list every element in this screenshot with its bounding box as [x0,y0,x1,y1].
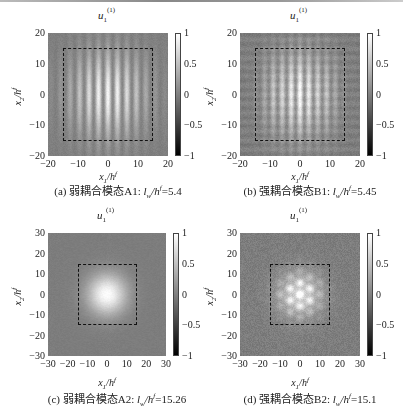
y-tick-label: 0 [217,89,237,100]
colorbar [175,33,181,156]
y-tick-label: −10 [25,309,45,320]
y-tick-label: 0 [217,289,237,300]
dashed-region-box [63,48,153,140]
x-tick-label: 30 [348,358,372,369]
y-axis-label: x2/hf [202,276,217,316]
colorbar [173,233,179,356]
x-tick-label: 0 [96,158,120,169]
dashed-region-box [270,264,330,326]
dashed-region-box [255,48,345,140]
y-tick-label: 20 [217,27,237,38]
heatmap-area [240,233,360,356]
colorbar-tick-label: −1 [376,350,387,361]
plot-title: u1(1) [98,8,115,24]
x-tick-label: 30 [154,358,178,369]
colorbar-tick-label: 1 [184,27,189,38]
y-tick-label: 0 [25,289,45,300]
colorbar-tick-label: 0.5 [376,258,389,269]
colorbar-tick-label: −0.5 [376,119,394,130]
x-tick-label: 20 [156,158,180,169]
x-tick-label: −10 [66,158,90,169]
plot-title: u1(1) [290,8,307,24]
colorbar-tick-label: −0.5 [184,119,202,130]
y-tick-label: −10 [25,119,45,130]
y-axis-label: x2/hf [10,76,25,116]
plot-title: u1(1) [290,208,307,224]
colorbar-tick-label: 1 [376,227,381,238]
colorbar-tick-label: 0 [376,289,381,300]
y-axis-label: x2/hf [202,76,217,116]
y-tick-label: −10 [217,309,237,320]
y-tick-label: 10 [217,268,237,279]
colorbar [367,33,373,156]
y-tick-label: 0 [25,89,45,100]
colorbar-tick-label: −1 [376,150,387,161]
x-tick-label: 20 [348,158,372,169]
panel-caption: (b) 强耦合模态B1: lw/hf=5.45 [210,182,403,200]
colorbar-tick-label: 0.5 [376,58,389,69]
y-tick-label: 30 [25,227,45,238]
y-tick-label: 20 [25,248,45,259]
colorbar-tick-label: 1 [182,227,187,238]
colorbar-tick-label: 1 [376,27,381,38]
y-tick-label: −20 [217,330,237,341]
colorbar-tick-label: 0.5 [182,258,195,269]
y-tick-label: 20 [25,27,45,38]
panel-caption: (c) 弱耦合模态A2: lw/hf=15.26 [18,390,216,408]
colorbar-tick-label: 0 [182,289,187,300]
heatmap-area [48,33,168,156]
colorbar-tick-label: 0 [376,89,381,100]
x-tick-label: −20 [228,158,252,169]
colorbar [367,233,373,356]
y-tick-label: 20 [217,248,237,259]
x-tick-label: −10 [258,158,282,169]
y-axis-label: x2/hf [10,276,25,316]
colorbar-tick-label: −1 [184,150,195,161]
y-tick-label: −20 [25,330,45,341]
plot-title: u1(1) [97,208,114,224]
x-tick-label: 0 [288,158,312,169]
y-tick-label: 10 [25,58,45,69]
heatmap-area [48,233,166,356]
panel-caption: (d) 强耦合模态B2: lw/hf=15.1 [210,390,403,408]
x-tick-label: −20 [36,158,60,169]
panel-caption: (a) 弱耦合模态A1: lw/hf=5.4 [18,182,218,200]
y-tick-label: −10 [217,119,237,130]
x-tick-label: 10 [126,158,150,169]
x-tick-label: 10 [318,158,342,169]
y-tick-label: 10 [217,58,237,69]
heatmap-area [240,33,360,156]
colorbar-tick-label: −1 [182,350,193,361]
y-tick-label: 30 [217,227,237,238]
colorbar-tick-label: −0.5 [182,319,200,330]
top-border [0,0,403,2]
colorbar-tick-label: 0.5 [184,58,197,69]
y-tick-label: 10 [25,268,45,279]
colorbar-tick-label: 0 [184,89,189,100]
dashed-region-box [78,264,137,326]
colorbar-tick-label: −0.5 [376,319,394,330]
